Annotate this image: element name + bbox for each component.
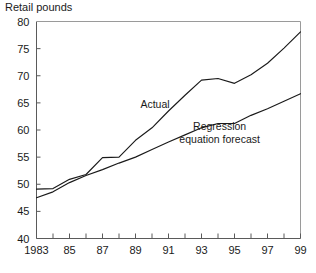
y-axis-ticks bbox=[37, 49, 41, 212]
plot-frame bbox=[37, 22, 301, 239]
x-tick-label: 93 bbox=[195, 244, 207, 256]
y-tick-label: 65 bbox=[17, 97, 29, 109]
y-tick-label: 55 bbox=[17, 151, 29, 163]
x-tick-label: 87 bbox=[96, 244, 108, 256]
x-tick-label: 97 bbox=[261, 244, 273, 256]
y-axis-tick-labels: 404550556065707580 bbox=[17, 16, 29, 245]
chart-plot: 404550556065707580 19838587899193959799 … bbox=[0, 0, 316, 273]
y-tick-label: 80 bbox=[17, 16, 29, 28]
y-tick-label: 45 bbox=[17, 205, 29, 217]
x-tick-label: 89 bbox=[129, 244, 141, 256]
series-annotation-regression-line2: equation forecast bbox=[179, 133, 260, 145]
series-line-actual bbox=[37, 32, 301, 189]
chart-container: Retail pounds 404550556065707580 1983858… bbox=[0, 0, 316, 273]
x-tick-label: 85 bbox=[63, 244, 75, 256]
y-tick-label: 60 bbox=[17, 124, 29, 136]
y-tick-label: 75 bbox=[17, 43, 29, 55]
series-annotation-actual: Actual bbox=[140, 98, 169, 110]
y-tick-label: 70 bbox=[17, 70, 29, 82]
series-annotation-regression-line1: Regression bbox=[193, 120, 246, 132]
x-axis-tick-labels: 19838587899193959799 bbox=[24, 244, 306, 256]
x-tick-label: 99 bbox=[294, 244, 306, 256]
x-tick-label: 1983 bbox=[24, 244, 48, 256]
x-axis-ticks bbox=[37, 234, 301, 239]
x-tick-label: 95 bbox=[228, 244, 240, 256]
y-tick-label: 50 bbox=[17, 178, 29, 190]
x-tick-label: 91 bbox=[162, 244, 174, 256]
